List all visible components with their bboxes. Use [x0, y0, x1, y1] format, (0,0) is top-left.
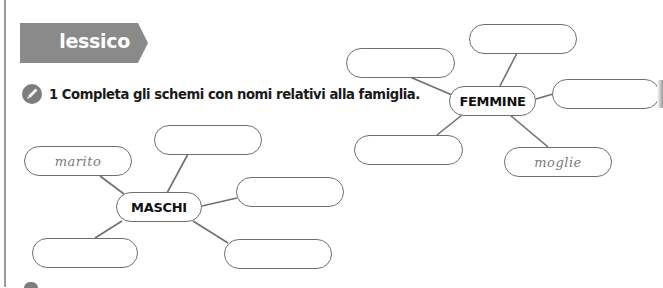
answer-box-femmine-4[interactable] [354, 135, 463, 165]
answer-box-maschi-2[interactable] [154, 125, 262, 155]
answer-box-maschi-1[interactable]: marito [24, 146, 132, 176]
answer-box-femmine-1[interactable] [346, 48, 455, 78]
center-node-femmine: FEMMINE [449, 86, 536, 116]
answer-box-maschi-4[interactable] [224, 239, 332, 269]
center-node-maschi: MASCHI [116, 192, 202, 222]
page-edge-mark [657, 80, 663, 108]
answer-box-femmine-3[interactable] [552, 79, 660, 109]
answer-box-maschi-5[interactable] [32, 238, 138, 268]
answer-box-maschi-3[interactable] [236, 177, 344, 207]
answer-box-femmine-2[interactable] [469, 24, 577, 54]
handwritten-answer: moglie [534, 155, 581, 170]
next-exercise-icon-partial [24, 282, 38, 288]
handwritten-answer: marito [55, 154, 102, 169]
answer-box-femmine-5[interactable]: moglie [504, 147, 612, 177]
